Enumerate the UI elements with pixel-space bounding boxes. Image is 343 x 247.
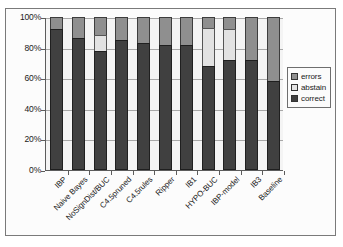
y-axis-tick-label: 20%	[1, 135, 41, 144]
bar-naive-bayes	[72, 17, 85, 170]
x-tick-mark	[284, 171, 285, 175]
chart-legend: errorsabstaincorrect	[287, 67, 331, 108]
bar-segment-correct	[223, 60, 236, 170]
x-tick-mark	[154, 171, 155, 175]
bar-c4-5pruned	[115, 17, 128, 170]
bar-segment-correct	[245, 60, 258, 170]
legend-swatch-icon	[291, 73, 298, 80]
y-tick-mark	[41, 110, 45, 111]
bar-ibp	[50, 17, 63, 170]
bar-segment-errors	[115, 17, 128, 40]
legend-label: abstain	[301, 83, 326, 92]
bar-ibp-model	[223, 17, 236, 170]
bar-segment-errors	[94, 17, 107, 35]
y-axis-tick-label: 80%	[1, 44, 41, 53]
bar-segment-errors	[72, 17, 85, 38]
x-tick-mark	[262, 171, 263, 175]
x-tick-mark	[111, 171, 112, 175]
x-tick-mark	[133, 171, 134, 175]
legend-swatch-icon	[291, 84, 298, 91]
bar-segment-errors	[223, 17, 236, 29]
y-tick-mark	[41, 79, 45, 80]
y-tick-mark	[41, 18, 45, 19]
y-tick-mark	[41, 140, 45, 141]
bar-segment-abstain	[94, 35, 107, 50]
bar-segment-abstain	[202, 28, 215, 66]
bar-segment-abstain	[223, 29, 236, 60]
bar-ib1	[180, 17, 193, 170]
x-tick-mark	[176, 171, 177, 175]
legend-item: correct	[291, 93, 326, 104]
x-tick-mark	[197, 171, 198, 175]
bar-segment-errors	[202, 17, 215, 28]
y-tick-mark	[41, 171, 45, 172]
y-axis-tick-label: 60%	[1, 74, 41, 83]
bar-segment-correct	[94, 51, 107, 170]
legend-label: correct	[301, 94, 325, 103]
bar-segment-errors	[267, 17, 280, 81]
bar-segment-correct	[180, 45, 193, 170]
x-tick-mark	[219, 171, 220, 175]
legend-item: errors	[291, 71, 326, 82]
bar-ripper	[159, 17, 172, 170]
y-axis-tick-label: 0%	[1, 166, 41, 175]
y-tick-mark	[41, 49, 45, 50]
bar-segment-errors	[159, 17, 172, 45]
legend-label: errors	[301, 72, 321, 81]
bar-segment-correct	[137, 43, 150, 170]
bar-hypo-buc	[202, 17, 215, 170]
x-tick-mark	[68, 171, 69, 175]
x-tick-mark	[241, 171, 242, 175]
bar-segment-errors	[180, 17, 193, 45]
bar-segment-correct	[72, 38, 85, 170]
bar-segment-correct	[159, 45, 172, 170]
bar-segment-errors	[245, 17, 258, 60]
chart-figure: 100%80%60%40%20%0% IBPNaive BayesNoSignD…	[0, 0, 343, 247]
plot-area	[45, 18, 283, 171]
bar-segment-errors	[50, 17, 63, 29]
bar-segment-correct	[115, 40, 128, 170]
bar-baseline	[267, 17, 280, 170]
bar-segment-correct	[202, 66, 215, 170]
bar-segment-correct	[267, 81, 280, 170]
y-axis-tick-label: 100%	[1, 13, 41, 22]
x-tick-mark	[89, 171, 90, 175]
legend-swatch-icon	[291, 95, 298, 102]
bar-nosigndist-buc	[94, 17, 107, 170]
y-axis: 100%80%60%40%20%0%	[0, 0, 41, 247]
y-axis-tick-label: 40%	[1, 105, 41, 114]
legend-item: abstain	[291, 82, 326, 93]
bar-ib3	[245, 17, 258, 170]
bar-segment-correct	[50, 29, 63, 170]
bar-segment-errors	[137, 17, 150, 43]
bar-c4-5rules	[137, 17, 150, 170]
